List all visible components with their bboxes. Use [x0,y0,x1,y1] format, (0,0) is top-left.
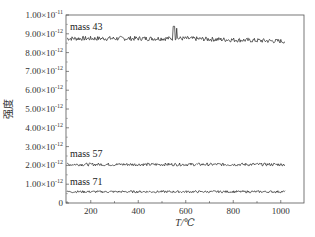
series-label: mass 43 [70,21,103,32]
y-tick-label: 7.00×10-12 [25,65,63,76]
y-tick-label: 8.00×10-12 [25,47,63,58]
series-line-mass-57 [67,163,285,166]
x-tick-label: 600 [179,206,193,216]
series-label: mass 71 [70,176,103,187]
x-tick-label: 200 [84,206,98,216]
y-tick-label: 4.00×10-12 [25,122,63,133]
data-series: mass 43mass 57mass 71 [67,21,285,193]
y-tick-label: 6.00×10-12 [25,84,63,95]
y-tick-label: 1.00×10-11 [25,9,63,20]
x-tick-label: 400 [132,206,146,216]
series-label: mass 57 [70,148,103,159]
y-tick-label: 9.00×10-12 [25,28,63,39]
y-tick-label: 5.00×10-12 [25,103,63,114]
y-axis-ticks: 01.00×10-122.00×10-123.00×10-124.00×10-1… [25,9,69,208]
x-tick-label: 800 [227,206,241,216]
y-tick-label: 3.00×10-12 [25,141,63,152]
y-tick-label: 1.00×10-12 [25,178,63,189]
x-axis-ticks: 2004006008001000 [67,200,290,216]
y-axis-title: 强度 [2,99,14,119]
line-chart: 01.00×10-122.00×10-123.00×10-124.00×10-1… [0,0,315,237]
x-axis-title: T/℃ [175,217,195,228]
y-tick-label: 2.00×10-12 [25,159,63,170]
x-tick-label: 1000 [272,206,291,216]
y-tick-label: 0 [59,198,64,208]
series-line-mass-71 [67,191,285,193]
